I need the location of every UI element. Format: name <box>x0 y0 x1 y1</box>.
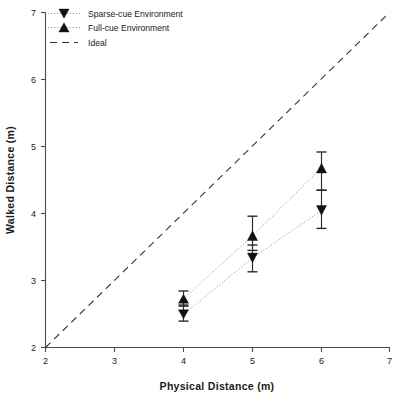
legend-label-ideal: Ideal <box>88 38 107 48</box>
full-cue-marker-x5 <box>247 231 257 241</box>
full-cue-marker-x6 <box>316 163 326 173</box>
x-tick-label-7: 7 <box>387 356 392 366</box>
x-axis-tick-labels: 2 3 4 5 6 7 <box>43 356 392 366</box>
legend-label-full-cue: Full-cue Environment <box>88 23 170 33</box>
y-axis-tick-labels: 7 6 5 4 3 2 <box>31 8 36 353</box>
legend-label-sparse-cue: Sparse-cue Environment <box>88 9 183 19</box>
chart-legend: Sparse-cue Environment Full-cue Environm… <box>48 9 183 48</box>
x-tick-label-6: 6 <box>319 356 324 366</box>
x-tick-label-4: 4 <box>181 356 186 366</box>
x-axis-title: Physical Distance (m) <box>160 380 275 392</box>
data-point-group-x5 <box>247 216 257 272</box>
y-tick-label-4: 4 <box>31 209 36 219</box>
y-tick-label-7: 7 <box>31 8 36 18</box>
x-tick-label-2: 2 <box>43 356 48 366</box>
chart-figure: 7 6 5 4 3 2 2 3 4 5 6 7 Physical Distanc… <box>0 0 405 402</box>
data-point-group-x4 <box>178 291 188 321</box>
data-point-group-x6 <box>316 152 326 228</box>
scatter-plot: 7 6 5 4 3 2 2 3 4 5 6 7 Physical Distanc… <box>0 0 405 402</box>
y-axis-ticks <box>41 13 46 348</box>
ideal-reference-line <box>46 13 390 348</box>
y-tick-label-2: 2 <box>31 343 36 353</box>
x-tick-label-5: 5 <box>250 356 255 366</box>
full-cue-marker-x4 <box>178 294 188 303</box>
y-axis-title: Walked Distance (m) <box>4 126 16 234</box>
sparse-cue-marker-x6 <box>316 206 326 216</box>
y-tick-label-5: 5 <box>31 142 36 152</box>
x-tick-label-3: 3 <box>112 356 117 366</box>
sparse-cue-marker-x4 <box>178 310 188 319</box>
y-tick-label-3: 3 <box>31 276 36 286</box>
x-axis-ticks <box>46 348 390 353</box>
y-tick-label-6: 6 <box>31 75 36 85</box>
